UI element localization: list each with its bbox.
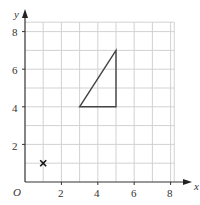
y-axis	[22, 9, 28, 182]
grid-lines	[25, 22, 174, 182]
x-tick-label: 4	[94, 187, 100, 199]
y-tick-label: 6	[12, 64, 18, 76]
x-tick-label: 6	[131, 187, 137, 199]
y-tick-label: 4	[12, 102, 18, 114]
y-axis-arrow-icon	[22, 9, 28, 18]
origin-label: O	[13, 186, 21, 198]
y-axis-label: y	[13, 8, 19, 20]
x-axis-arrow-icon	[183, 179, 192, 185]
x-tick-label: 8	[167, 187, 173, 199]
y-tick-label: 2	[12, 140, 18, 152]
coordinate-grid: x y O 2 4 6 8 2 4 6 8	[0, 0, 200, 205]
y-tick-label: 8	[12, 26, 18, 38]
x-axis-label: x	[193, 180, 199, 192]
x-axis	[25, 179, 192, 185]
x-tick-label: 2	[58, 187, 64, 199]
